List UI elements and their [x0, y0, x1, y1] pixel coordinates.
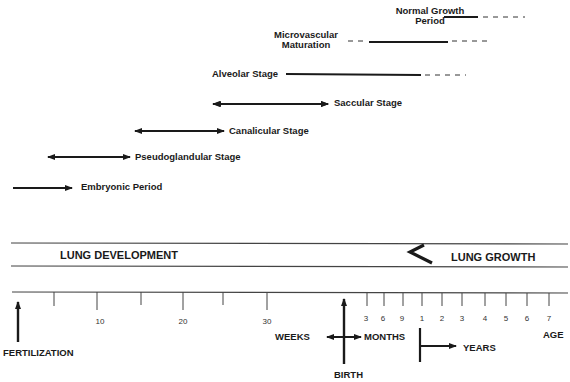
timeline-axis	[12, 292, 568, 310]
birth-label: BIRTH	[334, 369, 363, 380]
years-label: YEARS	[463, 342, 496, 353]
tick-label-years: 4	[483, 314, 487, 323]
months-label: MONTHS	[364, 331, 405, 342]
tick-label-months: 9	[400, 314, 404, 323]
tick-label-years: 7	[547, 314, 551, 323]
stage-label-canalicular: Canalicular Stage	[229, 126, 309, 136]
stage-label-normal-growth: Normal Growth Period	[390, 6, 470, 26]
stage-label-line: Maturation	[268, 40, 344, 50]
microvascular-maturation-bar	[348, 41, 492, 42]
stage-label-microvascular: Microvascular Maturation	[268, 30, 344, 50]
tick-label-years: 1	[420, 314, 424, 323]
tick-label-years: 5	[504, 314, 508, 323]
tick-label-weeks: 10	[96, 317, 105, 326]
alveolar-stage-bar	[286, 74, 466, 75]
tick-label-months: 3	[364, 314, 368, 323]
tick-label-weeks: 20	[179, 317, 188, 326]
stage-label-pseudoglandular: Pseudoglandular Stage	[135, 152, 241, 162]
stage-label-line: Period	[390, 16, 470, 26]
band-lung-growth: LUNG GROWTH	[451, 251, 535, 263]
weeks-label: WEEKS	[275, 331, 310, 342]
band-top-line	[11, 243, 568, 244]
band-bottom-line	[11, 266, 568, 267]
tick-label-years: 3	[460, 314, 464, 323]
stage-label-embryonic: Embryonic Period	[81, 182, 162, 192]
tick-label-years: 6	[525, 314, 529, 323]
age-label: AGE	[543, 329, 564, 340]
stage-label-saccular: Saccular Stage	[334, 98, 402, 108]
band-lung-development: LUNG DEVELOPMENT	[60, 249, 178, 261]
tick-label-weeks: 30	[263, 317, 272, 326]
fertilization-label: FERTILIZATION	[3, 347, 74, 358]
tick-label-months: 6	[381, 314, 385, 323]
tick-label-years: 2	[440, 314, 444, 323]
stage-label-alveolar: Alveolar Stage	[212, 69, 278, 79]
break-symbol-icon	[410, 245, 432, 263]
